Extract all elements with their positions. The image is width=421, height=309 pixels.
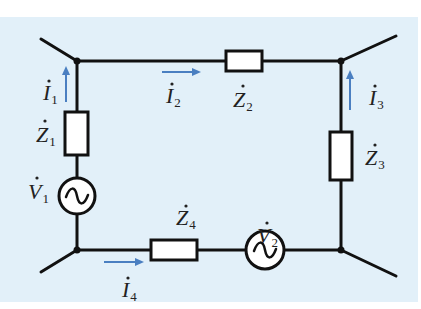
label-i4: I4 (121, 277, 137, 304)
arrow-up-icon (62, 66, 70, 75)
stub-bottom-left (41, 250, 77, 272)
impedance-z2 (226, 51, 262, 71)
stub-top-right (341, 36, 396, 61)
label-z1: Z1 (36, 122, 56, 149)
label-z2: Z2 (233, 87, 253, 114)
arrow-right-icon (192, 68, 201, 76)
label-i1: I1 (42, 80, 58, 107)
node-top-right (338, 58, 345, 65)
stub-top-left (41, 39, 77, 61)
label-v2: V2 (257, 223, 278, 250)
node-bottom-right (338, 247, 345, 254)
label-z3: Z3 (365, 145, 385, 172)
impedance-z4 (151, 240, 197, 260)
node-bottom-left (74, 247, 81, 254)
label-i2: I2 (165, 83, 181, 110)
label-z4: Z4 (176, 205, 196, 232)
circuit-diagram: I1 I2 I3 I4 Z1 Z2 Z3 Z4 V1 V2 (0, 0, 421, 309)
impedance-z1 (65, 112, 88, 155)
node-top-left (74, 58, 81, 65)
label-v1: V1 (28, 179, 49, 206)
label-i3: I3 (368, 85, 384, 112)
impedance-z3 (330, 132, 352, 180)
arrow-right-icon (135, 258, 144, 266)
arrow-up-icon (346, 70, 354, 79)
stub-bottom-right (341, 250, 396, 276)
